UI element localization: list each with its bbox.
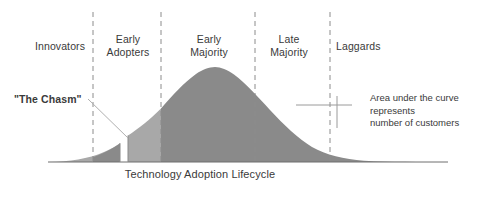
technology-adoption-lifecycle-diagram: Innovators Early Adopters Early Majority… (0, 0, 488, 199)
curve-area-early-adopters (128, 109, 161, 163)
curve-area-innovators-dark (93, 143, 120, 162)
area-under-curve-note: Area under the curve represents number o… (370, 92, 488, 130)
chasm-label: "The Chasm" (14, 93, 98, 105)
axis-title: Technology Adoption Lifecycle (0, 168, 400, 180)
